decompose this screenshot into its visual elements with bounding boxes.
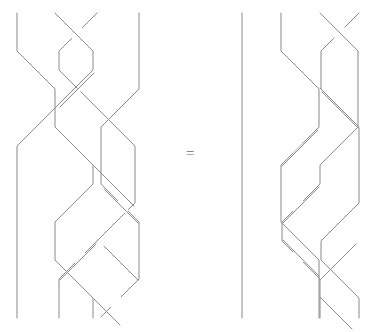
braid-equivalence-figure: = — [0, 0, 380, 332]
braid-diagram-canvas — [0, 0, 380, 332]
figure-background — [0, 0, 380, 332]
equals-sign: = — [186, 146, 194, 161]
